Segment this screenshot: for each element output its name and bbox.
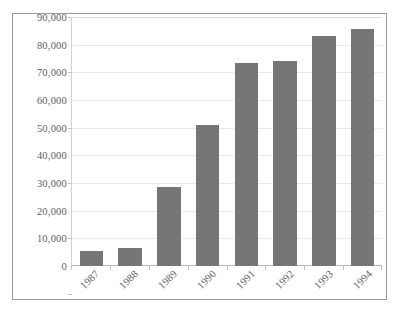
- bar[interactable]: [80, 251, 104, 266]
- bar-slot: [227, 17, 266, 266]
- bar[interactable]: [235, 63, 259, 266]
- x-axis-label-cell: 1994: [343, 270, 382, 300]
- x-axis-label-cell: 1992: [265, 270, 304, 300]
- y-axis-tick-label: 30,000: [37, 178, 67, 189]
- bar[interactable]: [351, 29, 375, 266]
- y-axis-tick-label: 60,000: [37, 95, 67, 106]
- x-axis-tick-label: 1994: [351, 268, 374, 291]
- bar-slot: [150, 17, 189, 266]
- y-axis-tick-labels: 010,00020,00030,00040,00050,00060,00070,…: [15, 17, 67, 266]
- x-axis-tick-label: 1992: [273, 268, 296, 291]
- x-axis-label-cell: 1989: [149, 270, 188, 300]
- bar-slot: [72, 17, 111, 266]
- x-axis-label-cell: 1991: [227, 270, 266, 300]
- bar-slot: [188, 17, 227, 266]
- y-axis-tick-label: 90,000: [37, 12, 67, 23]
- bar-slot: [305, 17, 344, 266]
- x-axis-label-cell: 1988: [110, 270, 149, 300]
- bar-slot: [343, 17, 382, 266]
- plot-area: [71, 17, 382, 266]
- bar-slot: [266, 17, 305, 266]
- x-axis-tick-label: 1987: [78, 268, 101, 291]
- x-axis-tick-label: 1991: [234, 268, 257, 291]
- bar[interactable]: [157, 187, 181, 266]
- bar[interactable]: [312, 36, 336, 266]
- y-axis-tick-label: 50,000: [37, 122, 67, 133]
- x-axis-label-cell: 1990: [188, 270, 227, 300]
- x-axis-tick-labels: 19871988198919901991199219931994: [71, 270, 382, 300]
- x-axis-label-cell: 1987: [71, 270, 110, 300]
- y-axis-tick-label: 0: [62, 261, 67, 272]
- bar[interactable]: [118, 248, 142, 266]
- bar[interactable]: [273, 61, 297, 266]
- chart-plot-wrapper: 010,00020,00030,00040,00050,00060,00070,…: [13, 14, 386, 299]
- x-axis-tick-label: 1989: [156, 268, 179, 291]
- x-axis-label-cell: 1993: [304, 270, 343, 300]
- chart-frame: 010,00020,00030,00040,00050,00060,00070,…: [12, 13, 387, 300]
- y-axis-tick-label: 80,000: [37, 39, 67, 50]
- y-axis-tick-label: 20,000: [37, 205, 67, 216]
- bar[interactable]: [196, 125, 220, 266]
- bar-series: [72, 17, 382, 266]
- x-axis-tick-label: 1990: [195, 268, 218, 291]
- x-axis-tick-label: 1988: [117, 268, 140, 291]
- y-axis-tick-label: 10,000: [37, 233, 67, 244]
- y-axis-tick-label: 70,000: [37, 67, 67, 78]
- bar-slot: [111, 17, 150, 266]
- x-axis-tick-label: 1993: [312, 268, 335, 291]
- y-axis-tick-label: 40,000: [37, 150, 67, 161]
